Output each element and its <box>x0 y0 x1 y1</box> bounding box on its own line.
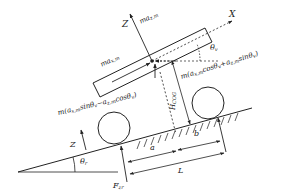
ma-x-arrow <box>112 63 150 82</box>
f-zr-label: Fzr <box>113 182 124 190</box>
theta-r-label: θr <box>80 158 87 166</box>
center-of-gravity <box>150 59 154 63</box>
h-cog-label: HCOG <box>170 92 177 110</box>
z-axis-label: Z <box>122 20 128 29</box>
theta-r-arc <box>73 157 75 172</box>
ground-z-label: Z <box>70 141 76 149</box>
vehicle-slope-diagram <box>0 0 286 195</box>
dimension-a-label: a <box>150 144 155 152</box>
theta-v-label: θv <box>210 44 218 52</box>
x-axis-label: X <box>229 10 235 19</box>
ground-z-arrow <box>81 130 86 150</box>
x-axis <box>152 21 232 61</box>
dimension-l <box>130 153 224 174</box>
front-wheel <box>192 87 224 119</box>
theta-v-arc <box>197 44 200 61</box>
dimension-l-label: L <box>178 167 183 175</box>
rear-wheel <box>98 112 130 144</box>
f-zr-arrow <box>121 146 127 182</box>
dimension-a <box>128 151 176 162</box>
slope-line <box>18 108 252 172</box>
dimension-b <box>178 141 220 150</box>
dimension-b-label: b <box>194 130 199 138</box>
